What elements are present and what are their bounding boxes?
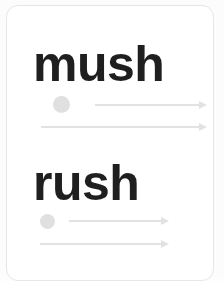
word-label-mush: mush bbox=[33, 39, 164, 89]
arrow-right-icon bbox=[40, 239, 169, 249]
progress-dot-icon bbox=[40, 214, 55, 229]
word-label-rush: rush bbox=[33, 158, 139, 208]
word-card: mush rush bbox=[6, 5, 214, 281]
arrow-right-icon bbox=[69, 216, 169, 226]
arrow-right-icon bbox=[41, 122, 207, 132]
arrow-right-icon bbox=[95, 100, 207, 110]
progress-dot-icon bbox=[53, 96, 70, 113]
